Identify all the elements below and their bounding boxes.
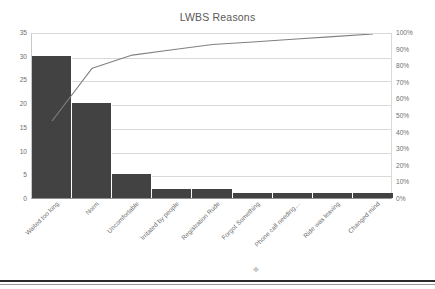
y-axis-right-tick: 70% xyxy=(396,79,409,87)
y-axis-right-tick: 10% xyxy=(396,178,409,186)
x-axis-label-text: Phone call needing… xyxy=(253,200,301,248)
page-bottom-rule-secondary xyxy=(0,284,435,285)
y-axis-left: 05101520253035 xyxy=(0,33,27,199)
y-axis-right-tick: 30% xyxy=(396,145,409,153)
x-axis-label: Irritated by people xyxy=(139,200,180,241)
y-axis-left-tick: 10 xyxy=(20,148,27,156)
y-axis-left-tick: 35 xyxy=(20,29,27,37)
x-axis-label-text: Ride was leaving xyxy=(302,200,341,239)
x-axis-label: Registration Rude xyxy=(179,200,220,241)
x-axis-label-text: Uncomfortable xyxy=(106,200,140,234)
y-axis-right-tick: 50% xyxy=(396,112,409,120)
page-bottom-rule xyxy=(0,280,435,282)
cumulative-line-path xyxy=(52,34,373,121)
y-axis-left-tick: 15 xyxy=(20,124,27,132)
x-axis-label: Changed mind xyxy=(347,200,381,234)
y-axis-left-tick: 20 xyxy=(20,100,27,108)
y-axis-right-tick: 0% xyxy=(396,195,406,203)
x-axis-label-text: Registration Rude xyxy=(179,200,220,241)
plot-area xyxy=(31,33,392,199)
cumulative-line-series xyxy=(32,34,393,200)
y-axis-left-tick: 25 xyxy=(20,76,27,84)
x-axis-label: Ride was leaving xyxy=(302,200,341,239)
scan-artifact-icon: ✥ xyxy=(253,266,262,273)
x-axis-label-text: Waited too long xyxy=(24,200,60,236)
y-axis-right: 0%10%20%30%40%50%60%70%80%90%100% xyxy=(396,33,434,199)
chart-page: LWBS Reasons 05101520253035 0%10%20%30%4… xyxy=(0,0,435,289)
y-axis-right-tick: 80% xyxy=(396,62,409,70)
y-axis-left-tick: 5 xyxy=(23,171,27,179)
y-axis-right-tick: 40% xyxy=(396,129,409,137)
x-axis-label: Uncomfortable xyxy=(106,200,140,234)
y-axis-left-tick: 30 xyxy=(20,53,27,61)
x-axis-category-labels: Waited too longNormUncomfortableIrritate… xyxy=(31,200,392,272)
x-axis-label-text: Changed mind xyxy=(347,200,381,234)
y-axis-right-tick: 100% xyxy=(396,29,413,37)
y-axis-right-tick: 20% xyxy=(396,162,409,170)
x-axis-label: Phone call needing… xyxy=(253,200,301,248)
y-axis-right-tick: 90% xyxy=(396,46,409,54)
page-title: LWBS Reasons xyxy=(0,11,435,23)
x-axis-label: Norm xyxy=(84,200,100,216)
x-axis-label: Waited too long xyxy=(24,200,60,236)
x-axis-label: Forgot Something xyxy=(220,200,261,241)
x-axis-label-text: Norm xyxy=(84,200,100,216)
x-axis-label-text: Irritated by people xyxy=(139,200,180,241)
y-axis-right-tick: 60% xyxy=(396,95,409,103)
x-axis-label-text: Forgot Something xyxy=(220,200,261,241)
y-axis-left-tick: 0 xyxy=(23,195,27,203)
